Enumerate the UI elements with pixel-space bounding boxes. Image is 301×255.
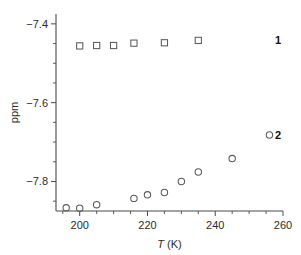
data-point-circle <box>131 195 137 201</box>
data-point-square <box>195 37 201 43</box>
data-point-square <box>110 42 116 48</box>
data-point-circle <box>144 192 150 198</box>
data-point-circle <box>229 155 235 161</box>
series-label-1: 1 <box>275 34 281 46</box>
chart-figure: 200220240260−7.4−7.6−7.812T (K)ppm <box>0 0 301 255</box>
data-point-circle <box>63 205 69 211</box>
data-point-square <box>94 42 100 48</box>
data-point-square <box>77 43 83 49</box>
data-point-circle <box>266 132 272 138</box>
y-tick-label: −7.6 <box>26 97 48 109</box>
y-tick-label: −7.8 <box>26 175 48 187</box>
data-point-square <box>161 40 167 46</box>
series-1 <box>77 37 202 49</box>
data-point-circle <box>178 178 184 184</box>
x-tick-label: 200 <box>71 219 89 231</box>
scatter-plot: 200220240260−7.4−7.6−7.812T (K)ppm <box>0 0 301 255</box>
x-axis-title-unit: (K) <box>164 238 182 250</box>
x-tick-label: 240 <box>206 219 224 231</box>
data-point-circle <box>161 189 167 195</box>
data-point-circle <box>195 169 201 175</box>
series-label-2: 2 <box>275 129 281 141</box>
y-tick-label: −7.4 <box>26 18 48 30</box>
x-tick-label: 220 <box>138 219 156 231</box>
series-2 <box>63 132 273 212</box>
data-point-circle <box>93 201 99 207</box>
y-axis-title: ppm <box>8 102 20 123</box>
x-axis-title: T (K) <box>157 238 181 250</box>
x-tick-label: 260 <box>274 219 292 231</box>
data-point-square <box>131 40 137 46</box>
